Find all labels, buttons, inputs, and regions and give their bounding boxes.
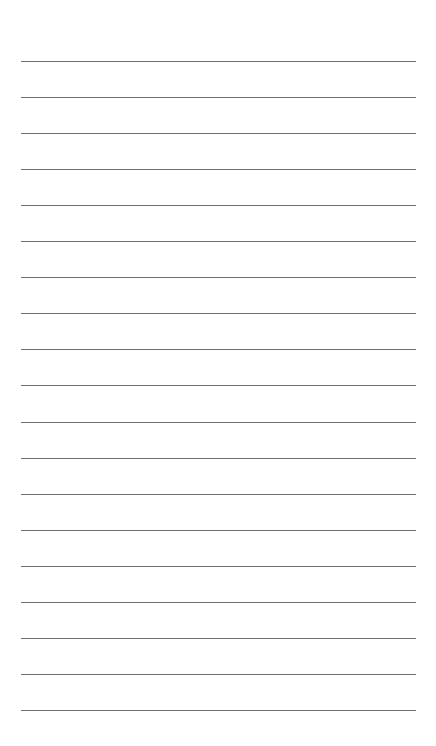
ruled-line: [21, 710, 416, 711]
ruled-line: [21, 313, 416, 314]
ruled-line: [21, 169, 416, 170]
ruled-line: [21, 530, 416, 531]
ruled-line: [21, 385, 416, 386]
ruled-line: [21, 97, 416, 98]
ruled-line: [21, 602, 416, 603]
ruled-line: [21, 133, 416, 134]
ruled-line: [21, 674, 416, 675]
ruled-line: [21, 566, 416, 567]
ruled-line: [21, 422, 416, 423]
ruled-line: [21, 638, 416, 639]
ruled-line: [21, 61, 416, 62]
ruled-line: [21, 277, 416, 278]
ruled-line: [21, 241, 416, 242]
ruled-line: [21, 349, 416, 350]
ruled-line: [21, 458, 416, 459]
ruled-line: [21, 205, 416, 206]
ruled-line: [21, 494, 416, 495]
